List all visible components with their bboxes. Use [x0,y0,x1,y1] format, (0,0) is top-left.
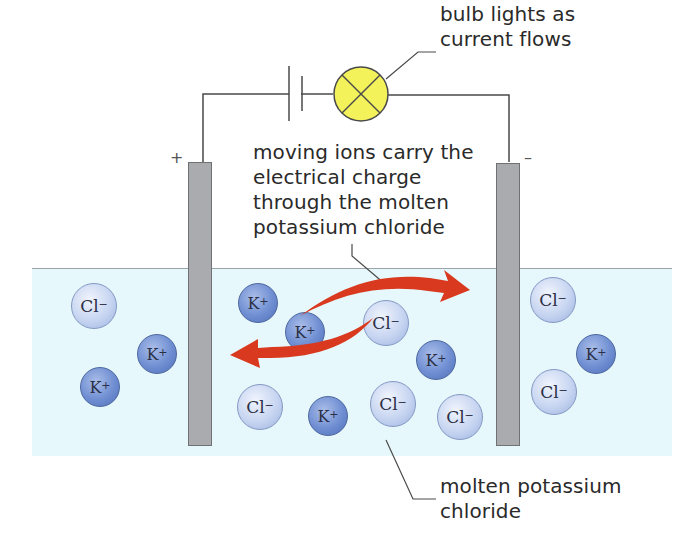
bulb-label: bulb lights as current flows [440,2,575,52]
electrolysis-diagram: + – Cl−K+K+K+K+Cl−K+Cl−K+Cl−Cl−Cl−K+Cl− … [0,0,691,540]
arrow-left-icon [230,318,373,368]
liquid-label: molten potassium chloride [440,474,622,524]
arrow-right-icon [300,270,470,316]
ion-movement-arrows [0,0,691,540]
ions-label: moving ions carry the electrical charge … [253,140,474,240]
